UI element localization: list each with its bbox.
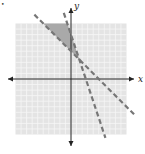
- x-axis-label: x: [138, 74, 143, 84]
- y-axis-arrow-down: [69, 141, 74, 146]
- x-axis-arrow-right: [129, 77, 134, 82]
- chart: • y x: [0, 0, 145, 154]
- item-bullet: •: [1, 0, 5, 7]
- y-axis-arrow-up: [69, 8, 74, 13]
- x-axis-arrow-left: [8, 77, 13, 82]
- y-axis-label: y: [73, 1, 80, 11]
